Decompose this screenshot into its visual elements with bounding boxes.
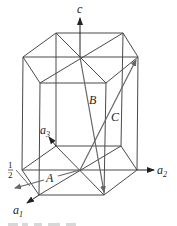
a3-axis: a3	[40, 123, 56, 146]
vector-a-label: A	[45, 171, 54, 185]
vector-b-label: B	[89, 93, 97, 107]
vector-c-label: C	[111, 110, 120, 124]
half-fraction: 1 2	[8, 160, 30, 186]
svg-text:1: 1	[8, 160, 13, 170]
a2-axis-label: a2	[157, 163, 167, 179]
vector-a: A	[15, 170, 80, 188]
a2-axis: a2	[137, 163, 167, 179]
c-axis-label: c	[77, 2, 83, 16]
a3-axis-label: a3	[40, 123, 50, 139]
cropped-caption	[8, 223, 76, 226]
svg-text:2: 2	[8, 170, 13, 180]
hexagonal-cell-diagram: c a2 a1 a3 A 1 2 B C	[0, 0, 177, 226]
a1-axis-label: a1	[13, 203, 23, 219]
c-axis: c	[77, 2, 83, 57]
a1-axis: a1	[13, 195, 39, 219]
